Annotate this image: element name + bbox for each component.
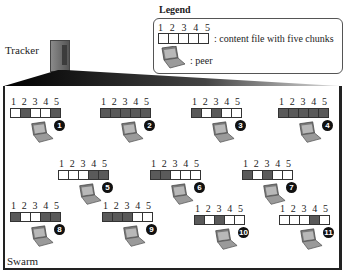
chunk-number: 1 — [11, 97, 16, 107]
chunk-cell — [212, 109, 222, 117]
peer-4[interactable]: 1 2 3 4 5 4 — [278, 97, 344, 157]
chunk-number: 2 — [203, 97, 208, 107]
chunk-number: 1 — [243, 159, 248, 169]
chunk-numbers: 1 2 3 4 5 — [58, 159, 108, 169]
chunk-cell — [121, 109, 131, 117]
chunk-cell — [113, 213, 123, 221]
chunk-cell — [192, 109, 202, 117]
laptop-icon — [120, 225, 146, 249]
chunk-number: 5 — [205, 22, 210, 33]
chunk-number: 5 — [194, 159, 199, 169]
chunk-numbers: 1 2 3 4 5 — [278, 97, 328, 107]
peer-8[interactable]: 1 2 3 4 5 8 — [10, 201, 80, 261]
laptop-icon — [297, 228, 323, 252]
chunk-numbers: 1 2 3 4 5 — [191, 97, 241, 107]
laptop-icon — [118, 121, 144, 145]
chunk-cell — [59, 171, 69, 179]
chunk-bar — [58, 170, 109, 180]
chunk-number: 2 — [291, 204, 296, 214]
chunk-number: 4 — [43, 97, 48, 107]
chunk-cell — [300, 216, 310, 224]
chunk-bar — [278, 108, 329, 118]
chunk-cell — [290, 216, 300, 224]
chunk-number: 3 — [81, 159, 86, 169]
chunk-number: 2 — [70, 159, 75, 169]
peer-3[interactable]: 1 2 3 4 5 3 — [191, 97, 261, 157]
chunk-number: 3 — [125, 201, 130, 211]
chunk-number: 3 — [265, 159, 270, 169]
chunk-number: 5 — [144, 97, 149, 107]
chunk-cell — [195, 216, 205, 224]
peer-11[interactable]: 1 2 3 4 5 11 — [279, 204, 344, 264]
chunk-cell — [235, 216, 244, 224]
chunk-cell — [171, 171, 181, 179]
chunk-cell — [179, 34, 189, 43]
chunk-number: 2 — [112, 97, 117, 107]
chunk-cell — [41, 213, 51, 221]
chunk-number: 5 — [323, 204, 328, 214]
chunk-bar — [10, 212, 61, 222]
peer-number-badge: 7 — [286, 182, 297, 193]
chunk-cell — [111, 109, 121, 117]
peer-1[interactable]: 1 2 3 4 5 1 — [10, 97, 80, 157]
chunk-number: 2 — [290, 97, 295, 107]
chunk-number: 4 — [227, 204, 232, 214]
chunk-number: 3 — [214, 97, 219, 107]
chunk-cell — [309, 109, 319, 117]
chunk-number: 4 — [312, 204, 317, 214]
laptop-icon — [28, 121, 54, 145]
chunk-bar — [102, 212, 153, 222]
peer-number-badge: 4 — [322, 120, 333, 131]
laptop-icon — [296, 121, 322, 145]
chunk-cell — [310, 216, 320, 224]
chunk-number: 1 — [280, 204, 285, 214]
chunk-number: 3 — [217, 204, 222, 214]
chunk-cell — [320, 216, 329, 224]
chunk-numbers: 1 2 3 4 5 — [194, 204, 244, 214]
chunk-bar — [100, 108, 151, 118]
chunk-number: 3 — [33, 97, 38, 107]
peer-number-badge: 3 — [235, 120, 246, 131]
chunk-cell — [101, 109, 111, 117]
chunk-numbers: 1 2 3 4 5 — [102, 201, 152, 211]
chunk-cell — [141, 109, 150, 117]
chunk-cell — [199, 34, 208, 43]
chunk-number: 4 — [275, 159, 280, 169]
chunk-cell — [21, 109, 31, 117]
chunk-number: 5 — [54, 97, 59, 107]
chunk-number: 1 — [158, 22, 163, 33]
chunk-number: 5 — [54, 201, 59, 211]
chunk-number: 1 — [103, 201, 108, 211]
chunk-cell — [225, 216, 235, 224]
peer-number-badge: 11 — [323, 227, 334, 238]
chunk-number: 4 — [193, 22, 198, 33]
chunk-cell — [151, 171, 161, 179]
chunk-number: 3 — [301, 97, 306, 107]
server-icon — [50, 40, 70, 72]
chunk-cell — [103, 213, 113, 221]
peer-number-badge: 10 — [238, 227, 249, 238]
peer-number-badge: 9 — [146, 224, 157, 235]
chunk-number: 2 — [206, 204, 211, 214]
chunk-bar — [242, 170, 293, 180]
chunk-number: 3 — [123, 97, 128, 107]
chunk-numbers: 1 2 3 4 5 — [150, 159, 200, 169]
peer-number-badge: 1 — [54, 120, 65, 131]
chunk-cell — [205, 216, 215, 224]
chunk-cell — [279, 109, 289, 117]
chunk-numbers: 1 2 3 4 5 — [100, 97, 150, 107]
chunk-cell — [11, 213, 21, 221]
chunk-cell — [51, 109, 60, 117]
peer-9[interactable]: 1 2 3 4 5 9 — [102, 201, 172, 261]
legend-chunk-numbers: 1 2 3 4 5 — [158, 22, 210, 33]
chunk-cell — [143, 213, 152, 221]
peer-number-badge: 5 — [102, 182, 113, 193]
peer-10[interactable]: 1 2 3 4 5 10 — [194, 204, 264, 264]
chunk-number: 2 — [254, 159, 259, 169]
chunk-cell — [159, 34, 169, 43]
peer-2[interactable]: 1 2 3 4 5 2 — [100, 97, 170, 157]
chunk-cell — [161, 171, 171, 179]
chunk-bar — [279, 215, 330, 225]
chunk-cell — [283, 171, 292, 179]
chunk-cell — [31, 109, 41, 117]
